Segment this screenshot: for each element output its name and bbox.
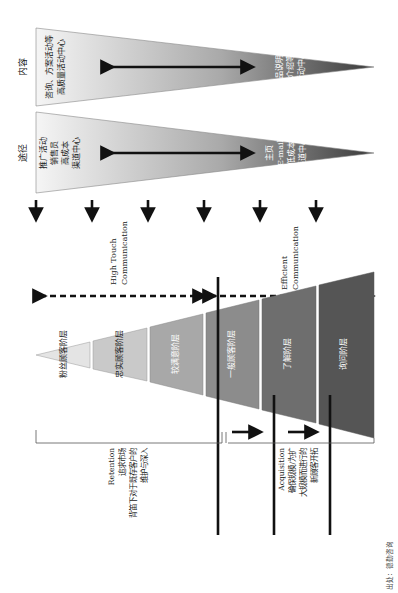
layer-label-1: 粉丝顾客阶层 [58,330,68,378]
retention-bracket [36,430,374,443]
content-narrow-text-1: 商品说明、 [274,47,284,87]
channel-narrow-text-1: 主页 [264,145,274,161]
layer-label-4: 一般顾客阶层 [226,330,236,378]
retention-line-1: 追求市场 [117,447,127,476]
content-label: 内容 [17,58,28,76]
channel-wide-text-3: 高成本 [60,141,70,165]
channel-wide-text-2: 销售员 [49,141,59,165]
channel-narrow-text-4: 渠道中心 [297,137,307,169]
efficient-label-2: Communication [291,226,300,290]
layer-label-6: 询问阶层 [338,338,348,370]
layer-label-5: 了解阶层 [282,338,292,370]
content-narrow-text-2: 销售介绍等 PR [285,39,295,94]
acquisition-line-1: 确保规模/为扩 [287,447,297,493]
acquisition-title: Acquisition [277,448,286,492]
content-wide-text-1: 咨询、方案活动等 [44,35,54,99]
high-touch-label-1: High Touch [109,238,118,285]
retention-line-2: 背笛下对于既存客户的 [128,448,138,518]
customer-pyramid-diagram: 内容 咨询、方案活动等 高质量活动中心 商品说明、 销售介绍等 PR 活动中心 … [0,0,398,593]
funnel [36,272,374,438]
channel-panel [36,112,374,193]
layer-label-3: 较满意阶层 [170,334,180,374]
acquisition-line-2: 大规模而进行的 [298,448,308,497]
layer-label-2: 忠实顾客阶层 [114,330,124,378]
content-panel [36,28,374,106]
channel-wide-text-4: 渠道中心 [71,137,81,169]
efficient-label-1: Efficient [280,255,289,290]
source-note: 出处：德勤咨询 [385,541,394,590]
retention-line-3: 维护与深入 [139,447,149,483]
retention-title: Retention [107,448,116,485]
acquisition-line-3: 新顾客开拓 [309,447,319,483]
channel-narrow-text-3: 低成本 [286,141,296,165]
channel-narrow-text-2: E-mail [276,139,285,166]
content-wide-text-2: 高质量活动中心 [56,39,66,95]
channel-wide-text-1: 推广活动 [38,137,48,169]
content-narrow-text-3: 活动中心 [296,51,306,83]
down-arrows [36,200,316,215]
channel-label: 途径 [17,144,28,162]
high-touch-label-2: Communication [120,221,129,285]
